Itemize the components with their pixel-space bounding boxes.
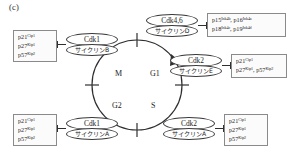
inhibitor-line: p18Ink4c, p19Ink4d — [212, 25, 282, 34]
cyclin-label-cyclinA-s: サイクリンA — [163, 128, 215, 140]
inhibitor-box-g2-phase: p21Cip1 p27Kip1 p57Kip2 — [13, 114, 57, 146]
inhibitor-line: p27Kip1 — [18, 42, 53, 51]
inhibition-arrow-cip-kip-g1s — [222, 62, 231, 69]
inhibition-arrow-s-phase — [215, 125, 224, 132]
inhibitor-line: p21Cip1 — [18, 117, 53, 126]
inhibitor-line: p21Cip1 — [236, 57, 283, 66]
inhibition-arrow-g2-phase — [57, 125, 66, 132]
phase-label-g2: G2 — [112, 101, 122, 110]
inhibitor-line: p57Kip2 — [18, 135, 53, 144]
inhibitor-line: p57Kip2 — [229, 135, 264, 144]
complex-cdk2-cyclinA: Cdk2 サイクリンA — [163, 117, 215, 140]
cyclin-label-cyclinA-g2: サイクリンA — [66, 128, 118, 140]
inhibitor-line: p57Kip2 — [18, 51, 53, 60]
inhibitor-line: p27Kip1, p57Kip2 — [236, 66, 283, 75]
cell-cycle-figure: (c) M G1 S G2 p21Cip1 p27Kip1 p57Kip2 Cd… — [0, 0, 293, 162]
complex-cdk1-cyclinA: Cdk1 サイクリンA — [66, 117, 118, 140]
cyclin-label-cyclinD: サイクリンD — [146, 25, 198, 37]
phase-label-m: M — [115, 69, 122, 78]
phase-label-g1: G1 — [150, 69, 160, 78]
inhibitor-box-m-phase: p21Cip1 p27Kip1 p57Kip2 — [13, 30, 57, 62]
cyclin-label-cyclinB: サイクリンB — [66, 44, 118, 56]
phase-label-s: S — [151, 101, 155, 110]
complex-cdk46-cyclinD: Cdk4,6 サイクリンD — [146, 14, 198, 37]
inhibitor-line: p21Cip1 — [18, 33, 53, 42]
inhibitor-line: p21Cip1 — [229, 117, 264, 126]
inhibition-arrow-m-phase — [57, 41, 66, 48]
inhibitor-line: p27Kip1 — [18, 126, 53, 135]
inhibitor-box-ink4-family: p15Ink4b, p16Ink4a p18Ink4c, p19Ink4d — [207, 13, 286, 37]
inhibitor-box-cip-kip-g1s: p21Cip1 p27Kip1, p57Kip2 — [231, 54, 287, 78]
cyclin-label-cyclinE: サイクリンE — [170, 65, 222, 77]
complex-cdk1-cyclinB: Cdk1 サイクリンB — [66, 33, 118, 56]
inhibitor-line: p27Kip1 — [229, 126, 264, 135]
inhibitor-line: p15Ink4b, p16Ink4a — [212, 16, 282, 25]
complex-cdk2-cyclinE: Cdk2 サイクリンE — [170, 54, 222, 77]
inhibitor-box-s-phase: p21Cip1 p27Kip1 p57Kip2 — [224, 114, 268, 146]
inhibition-arrow-ink4 — [198, 22, 207, 29]
